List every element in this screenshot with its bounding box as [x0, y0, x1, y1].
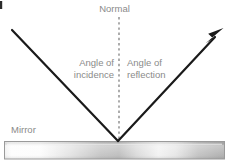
- angle-of-reflection-label: Angle of reflection: [127, 57, 185, 80]
- reflection-diagram: Normal Angle of incidence Angle of refle…: [0, 0, 229, 165]
- angle-of-reflection-line1: Angle of: [127, 57, 185, 69]
- angle-of-incidence-label: Angle of incidence: [62, 57, 114, 80]
- normal-label: Normal: [0, 3, 229, 15]
- mirror-bar: [5, 142, 225, 160]
- mirror-label-text: Mirror: [11, 124, 36, 136]
- mirror-label: Mirror: [11, 124, 36, 136]
- angle-of-reflection-line2: reflection: [127, 69, 185, 81]
- angle-of-incidence-line2: incidence: [62, 69, 114, 81]
- reflected-ray: [118, 28, 224, 141]
- normal-label-text: Normal: [0, 3, 229, 15]
- reflected-ray-arrowhead: [206, 28, 224, 43]
- angle-of-incidence-line1: Angle of: [62, 57, 114, 69]
- diagram-canvas: [0, 0, 229, 165]
